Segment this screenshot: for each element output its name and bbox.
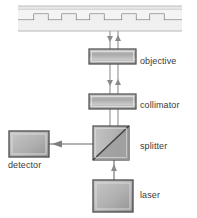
arrow-up-mid — [115, 79, 121, 85]
arrow-left-detector — [52, 141, 62, 148]
arrow-up-laser — [111, 164, 117, 171]
arrow-down-mid — [107, 80, 113, 86]
disc-track — [18, 6, 182, 31]
detector-component[interactable] — [9, 131, 49, 157]
laser-component[interactable] — [93, 180, 133, 212]
objective-component[interactable] — [89, 49, 136, 64]
optical-pickup-diagram: objective collimator splitter laser dete… — [0, 0, 197, 218]
label-collimator: collimator — [140, 100, 180, 110]
collimator-component[interactable] — [89, 94, 136, 109]
splitter-component[interactable] — [93, 126, 129, 160]
label-splitter: splitter — [140, 141, 167, 151]
label-objective: objective — [140, 56, 176, 66]
label-laser: laser — [140, 190, 160, 200]
arrow-up-upper — [115, 35, 121, 41]
arrow-down-upper — [107, 36, 113, 42]
label-detector: detector — [8, 160, 41, 170]
